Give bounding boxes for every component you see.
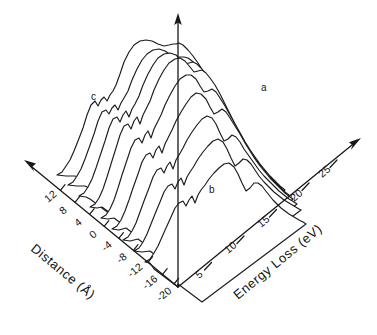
distance-axis-title: Distance (Å) — [28, 241, 98, 303]
energy-tick-label-25: 25 — [316, 162, 333, 179]
distance-tick-0 — [104, 221, 109, 227]
distance-tick-label--4: -4 — [99, 238, 114, 254]
distance-tick-label--16: -16 — [140, 272, 160, 291]
distance-tick-label--12: -12 — [125, 260, 145, 279]
distance-tick-12 — [60, 185, 65, 191]
distance-tick-label-4: 4 — [72, 215, 84, 228]
energy-tick-25 — [330, 160, 337, 168]
distance-tick--4 — [119, 233, 124, 239]
peak-label-c: c — [91, 91, 96, 102]
distance-tick-label--8: -8 — [114, 250, 129, 266]
peak-label-b: b — [209, 184, 215, 195]
waterfall-spectra-figure: 12 8 4 0 -4 -8 -12 -16 -20 5 10 15 20 25… — [0, 0, 377, 335]
distance-tick-label--20: -20 — [154, 284, 174, 303]
distance-tick-8 — [75, 197, 80, 203]
distance-tick-label-0: 0 — [87, 227, 99, 240]
energy-loss-axis-arrowhead — [349, 138, 361, 150]
peak-label-a: a — [261, 82, 267, 93]
distance-tick-4 — [90, 209, 95, 215]
plot-canvas: 12 8 4 0 -4 -8 -12 -16 -20 5 10 15 20 25… — [0, 0, 377, 335]
distance-tick-label-8: 8 — [57, 203, 69, 216]
distance-tick-label-12: 12 — [42, 187, 59, 204]
distance-axis-arrowhead — [24, 160, 36, 172]
